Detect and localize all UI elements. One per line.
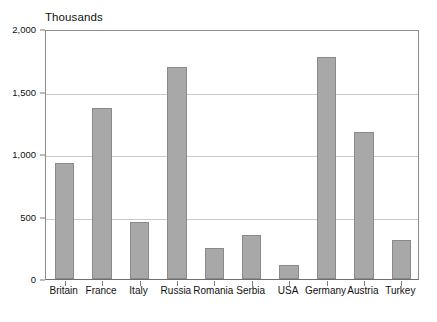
bar-usa (279, 265, 298, 279)
y-axis: 05001,0001,5002,000 (0, 0, 45, 322)
x-tick-label-france: France (86, 284, 117, 297)
y-tick-label: 500 (20, 213, 36, 223)
chart-title: Thousands (45, 10, 103, 24)
x-axis: BritainFranceItalyRussiaRomaniaSerbiaUSA… (45, 284, 419, 306)
bar-italy (130, 222, 149, 280)
bar-austria (354, 132, 373, 280)
y-tick-label: 1,500 (12, 88, 36, 98)
x-tick-label-romania: Romania (193, 284, 233, 297)
bar-britain (55, 163, 74, 279)
plot-area (45, 30, 419, 280)
y-tick-label: 2,000 (12, 25, 36, 35)
x-tick-label-turkey: Turkey (385, 284, 415, 297)
bar-romania (205, 248, 224, 279)
x-tick-label-usa: USA (278, 284, 299, 297)
x-tick-label-britain: Britain (50, 284, 78, 297)
x-tick-label-italy: Italy (129, 284, 147, 297)
y-tick-label: 1,000 (12, 150, 36, 160)
x-tick-label-russia: Russia (161, 284, 192, 297)
bar-france (92, 108, 111, 279)
bar-germany (317, 57, 336, 280)
gridline (46, 94, 418, 95)
bar-turkey (392, 240, 411, 279)
x-tick-label-germany: Germany (305, 284, 346, 297)
bar-russia (167, 67, 186, 280)
bar-serbia (242, 235, 261, 279)
x-tick-label-austria: Austria (347, 284, 378, 297)
bar-chart: Thousands 05001,0001,5002,000 BritainFra… (0, 0, 437, 322)
x-tick-label-serbia: Serbia (236, 284, 265, 297)
y-tick-label: 0 (31, 275, 36, 285)
